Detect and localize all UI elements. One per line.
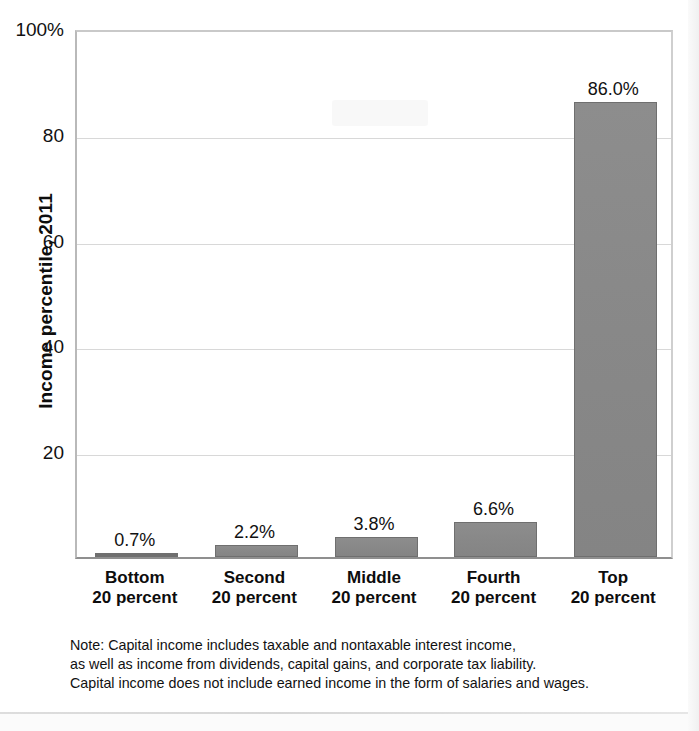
x-category-label-line: Fourth [451,568,536,588]
y-tick-label: 80 [0,125,64,147]
x-category-label-line: Top [571,568,656,588]
chart-note: Note: Capital income includes taxable an… [70,636,670,693]
bar-value-label: 2.2% [234,522,275,543]
chart-note-line: as well as income from dividends, capita… [70,655,670,674]
x-category-label: Top20 percent [571,568,656,608]
y-tick-label: 100% [0,19,64,41]
bar [335,537,418,557]
scan-artifact-smudge [332,100,428,126]
x-category-label-line: Second [212,568,297,588]
bar [454,522,537,557]
chart-note-line: Capital income does not include earned i… [70,674,670,693]
x-category-label-line: Middle [331,568,416,588]
bar-chart-figure: Income percentile, 2011 100%80604020 0.7… [0,0,699,731]
x-category-label: Bottom20 percent [92,568,177,608]
x-category-label: Middle20 percent [331,568,416,608]
x-category-label-line: 20 percent [92,588,177,608]
bar [574,102,657,557]
x-category-label: Second20 percent [212,568,297,608]
x-category-label-line: 20 percent [212,588,297,608]
x-category-label-line: Bottom [92,568,177,588]
x-category-label-line: 20 percent [571,588,656,608]
x-category-label: Fourth20 percent [451,568,536,608]
bar-value-label: 86.0% [588,79,639,100]
page-bottom-band [0,714,699,731]
bar [215,545,298,557]
bar-value-label: 3.8% [353,514,394,535]
page-right-edge [688,0,699,731]
x-category-label-line: 20 percent [451,588,536,608]
y-axis-title: Income percentile, 2011 [35,151,57,451]
x-category-label-line: 20 percent [331,588,416,608]
bar-value-label: 6.6% [473,499,514,520]
page-edge-line [0,712,699,714]
bar [95,553,178,557]
chart-note-line: Note: Capital income includes taxable an… [70,636,670,655]
bar-value-label: 0.7% [114,530,155,551]
